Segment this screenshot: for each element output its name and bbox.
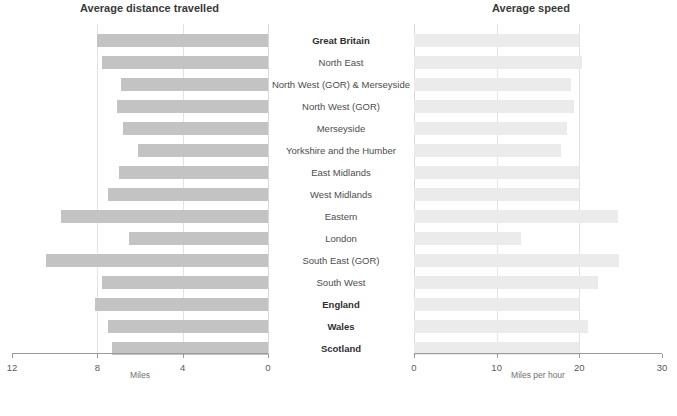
bar-row [414,338,662,360]
category-label: South East (GOR) [268,250,414,272]
right-bar-rows [414,24,662,354]
bar-row [12,228,268,250]
bar-row [414,272,662,294]
category-label: South West [268,272,414,294]
bar [414,276,598,289]
bar [414,78,571,91]
bar-row [414,74,662,96]
axis-tick-label: 0 [265,362,270,373]
bar [61,210,268,223]
right-chart-title: Average speed [492,2,570,14]
axis-tick-label: 20 [574,362,585,373]
bar [95,298,268,311]
axis-title: Miles per hour [511,370,565,380]
bar [414,144,561,157]
bar [414,254,619,267]
axis-tick-label: 10 [491,362,502,373]
axis-tick-label: 12 [7,362,18,373]
axis-tick-label: 8 [95,362,100,373]
bar [414,298,579,311]
bar-row [414,250,662,272]
bar-row [414,228,662,250]
bar [123,122,268,135]
right-chart-panel: 0102030Miles per hour [414,24,662,382]
bar-row [12,162,268,184]
bar-row [414,52,662,74]
bar [414,188,579,201]
category-label: Great Britain [268,30,414,52]
bar [414,166,579,179]
axis-tick [183,354,184,358]
left-x-axis-line [12,353,268,354]
bar-row [414,316,662,338]
category-label: Eastern [268,206,414,228]
category-label: Wales [268,316,414,338]
bar-row [414,96,662,118]
bar-row [12,96,268,118]
bar [414,232,521,245]
bar-row [12,140,268,162]
category-label: North West (GOR) & Merseyside [268,74,414,96]
bar-row [414,206,662,228]
category-label: East Midlands [268,162,414,184]
bar [102,56,268,69]
bar [138,144,268,157]
bar [414,122,567,135]
category-label: North West (GOR) [268,96,414,118]
category-label: London [268,228,414,250]
axis-tick-label: 0 [411,362,416,373]
bar-row [414,184,662,206]
right-x-axis-line [414,353,662,354]
bar-row [414,140,662,162]
bar-row [12,294,268,316]
bar [129,232,268,245]
bar-row [414,30,662,52]
category-label-column: Great BritainNorth EastNorth West (GOR) … [268,24,414,354]
bar [46,254,268,267]
category-label: England [268,294,414,316]
bar [414,210,618,223]
bar-row [12,272,268,294]
category-label: West Midlands [268,184,414,206]
bar-row [12,250,268,272]
bar-row [12,52,268,74]
axis-tick-label: 4 [180,362,185,373]
left-bar-rows [12,24,268,354]
category-label: North East [268,52,414,74]
left-chart-title: Average distance travelled [80,2,219,14]
axis-tick [497,354,498,358]
bar-row [12,206,268,228]
bar [108,188,268,201]
bar-row [12,316,268,338]
bar [117,100,268,113]
bar-row [12,338,268,360]
axis-tick [97,354,98,358]
bar-row [414,162,662,184]
left-chart-panel: 12840Miles [12,24,268,382]
bar-row [414,294,662,316]
bar [414,34,579,47]
category-label: Scotland [268,338,414,360]
bar [119,166,268,179]
bar [414,56,582,69]
bar [414,100,574,113]
bar-row [12,118,268,140]
category-label: Yorkshire and the Humber [268,140,414,162]
bar [97,34,268,47]
bar [121,78,268,91]
bar [108,320,268,333]
dual-bar-chart-figure: Average distance travelled Average speed… [0,0,677,416]
axis-tick [662,354,663,358]
bar-row [12,74,268,96]
bar [414,320,588,333]
axis-tick [579,354,580,358]
axis-tick [12,354,13,358]
bar-row [414,118,662,140]
category-label: Merseyside [268,118,414,140]
bar [102,276,268,289]
bar-row [12,184,268,206]
axis-tick [414,354,415,358]
bar-row [12,30,268,52]
axis-tick-label: 30 [657,362,668,373]
axis-title: Miles [130,370,150,380]
